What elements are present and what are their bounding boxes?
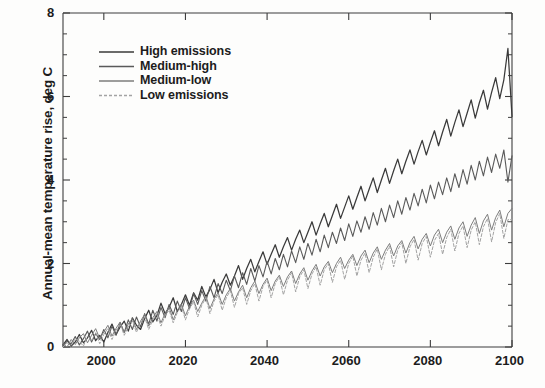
legend-lines	[99, 52, 134, 96]
x-tick-label-2080: 2080	[413, 353, 442, 368]
series-layer	[63, 48, 512, 347]
y-tick-label-6: 6	[47, 89, 54, 104]
x-tick-label-2040: 2040	[250, 353, 279, 368]
axis-layer	[63, 13, 512, 347]
y-tick-label-4: 4	[47, 172, 54, 187]
temperature-projection-figure: Annual-mean temperature rise, deg C 2000…	[0, 0, 545, 388]
series-line-0	[63, 48, 512, 346]
legend-label-0: High emissions	[140, 44, 231, 58]
chart-canvas	[0, 0, 545, 388]
x-tick-label-2000: 2000	[87, 353, 116, 368]
y-tick-label-2: 2	[47, 256, 54, 271]
legend-label-3: Low emissions	[140, 88, 228, 102]
x-tick-label-2060: 2060	[332, 353, 361, 368]
y-tick-label-0: 0	[47, 339, 54, 354]
y-tick-label-8: 8	[47, 5, 54, 20]
x-tick-label-2100: 2100	[495, 353, 524, 368]
x-tick-label-2020: 2020	[168, 353, 197, 368]
series-line-3	[63, 213, 512, 347]
legend-label-2: Medium-low	[140, 73, 211, 87]
legend-label-1: Medium-high	[140, 59, 217, 73]
